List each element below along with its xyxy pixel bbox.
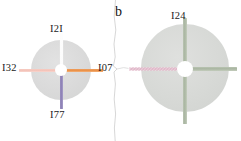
panel-a-arm-down-label: I77 (50, 110, 65, 121)
panel-b-letter: b (115, 5, 122, 19)
panel-a-arm-right-label: I07 (98, 63, 113, 74)
figure-root: I2I I07 I77 I32 b I24 (0, 0, 241, 141)
panel-a-hub (55, 64, 67, 76)
panel-b: b I24 (113, 0, 241, 141)
panel-a-arm-left-label: I32 (2, 63, 17, 74)
panel-b-arm-up-label: I24 (171, 11, 186, 22)
panel-b-hub (177, 61, 193, 77)
panel-a: I2I I07 I77 I32 (0, 0, 113, 141)
panel-a-arm-up-label: I2I (50, 24, 63, 35)
